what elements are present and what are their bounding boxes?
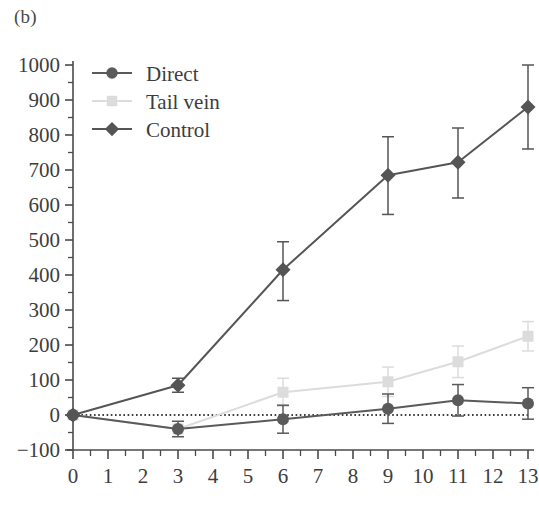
x-axis-tick-label: 0	[68, 464, 79, 488]
y-axis-tick-label: 800	[29, 123, 61, 147]
data-point-marker	[172, 423, 184, 435]
legend-entry: Direct	[92, 62, 199, 86]
x-axis-tick-label: 2	[138, 464, 149, 488]
y-axis-tick-label: 900	[29, 88, 61, 112]
x-axis-tick-label: 1	[103, 464, 114, 488]
x-axis-tick-label: 12	[483, 464, 504, 488]
y-axis-tick-label: 700	[29, 158, 61, 182]
y-axis-tick-label: −100	[17, 438, 60, 462]
y-axis-tick-label: 400	[29, 263, 61, 287]
y-axis-tick-label: 100	[29, 368, 61, 392]
data-point-marker	[383, 376, 394, 387]
x-axis-tick-label: 7	[313, 464, 324, 488]
legend-label: Tail vein	[146, 90, 220, 114]
data-point-marker	[107, 96, 117, 106]
chart-series	[67, 385, 534, 437]
x-axis-tick-label: 13	[518, 464, 539, 488]
y-axis-tick-label: 300	[29, 298, 61, 322]
x-axis-tick-label: 10	[413, 464, 434, 488]
y-axis-tick-label: 500	[29, 228, 61, 252]
data-point-marker	[277, 413, 289, 425]
x-axis-tick-label: 5	[243, 464, 254, 488]
data-point-marker	[278, 387, 289, 398]
data-point-marker	[523, 331, 534, 342]
legend-label: Direct	[146, 62, 199, 86]
series-line	[73, 107, 528, 415]
data-point-marker	[452, 394, 464, 406]
line-chart: −100010020030040050060070080090010000123…	[0, 0, 539, 508]
chart-series	[68, 322, 535, 437]
legend-label: Control	[146, 118, 210, 142]
x-axis-tick-label: 4	[208, 464, 219, 488]
data-point-marker	[522, 397, 534, 409]
data-point-marker	[106, 67, 117, 78]
data-point-marker	[105, 122, 119, 136]
y-axis-tick-label: 200	[29, 333, 61, 357]
legend-entry: Control	[92, 118, 210, 142]
y-axis-tick-label: 1000	[18, 53, 60, 77]
legend-entry: Tail vein	[92, 90, 220, 114]
x-axis-tick-label: 9	[383, 464, 394, 488]
x-axis-tick-label: 11	[448, 464, 468, 488]
data-point-marker	[382, 403, 394, 415]
chart-series	[66, 65, 536, 423]
series-layer	[66, 65, 536, 437]
figure-panel-b: (b) −10001002003004005006007008009001000…	[0, 0, 539, 508]
chart-legend: DirectTail veinControl	[92, 62, 220, 142]
y-axis-tick-label: 600	[29, 193, 61, 217]
x-axis-tick-label: 3	[173, 464, 184, 488]
x-axis-tick-label: 6	[278, 464, 289, 488]
y-axis-tick-label: 0	[50, 403, 61, 427]
data-point-marker	[453, 356, 464, 367]
x-axis-tick-label: 8	[348, 464, 359, 488]
